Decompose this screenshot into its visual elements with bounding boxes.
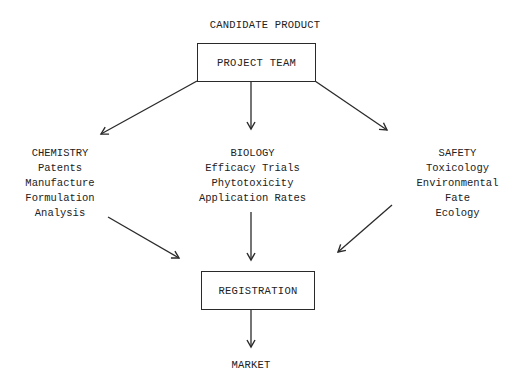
biology-title: BIOLOGY bbox=[180, 146, 325, 161]
arrow-team-to-chemistry bbox=[101, 81, 197, 134]
safety-item: Ecology bbox=[400, 206, 515, 221]
safety-item: Toxicology bbox=[400, 161, 515, 176]
biology-group: BIOLOGY Efficacy Trials Phytotoxicity Ap… bbox=[180, 146, 325, 206]
arrow-chemistry-to-registration bbox=[108, 217, 179, 258]
arrow-team-to-safety bbox=[315, 81, 387, 130]
safety-item: Fate bbox=[400, 191, 515, 206]
chemistry-item: Analysis bbox=[0, 206, 120, 221]
biology-item: Phytotoxicity bbox=[180, 176, 325, 191]
safety-group: SAFETY Toxicology Environmental Fate Eco… bbox=[400, 146, 515, 221]
chemistry-item: Formulation bbox=[0, 191, 120, 206]
project-team-label: PROJECT TEAM bbox=[217, 57, 296, 69]
chemistry-group: CHEMISTRY Patents Manufacture Formulatio… bbox=[0, 146, 120, 221]
safety-item: Environmental bbox=[400, 176, 515, 191]
chemistry-title: CHEMISTRY bbox=[0, 146, 120, 161]
registration-box: REGISTRATION bbox=[201, 271, 315, 310]
registration-label: REGISTRATION bbox=[218, 285, 297, 297]
market-label: MARKET bbox=[201, 359, 301, 371]
candidate-product-label: CANDIDATE PRODUCT bbox=[190, 19, 340, 31]
project-team-box: PROJECT TEAM bbox=[197, 43, 316, 82]
safety-title: SAFETY bbox=[400, 146, 515, 161]
arrow-safety-to-registration bbox=[338, 205, 392, 252]
biology-item: Application Rates bbox=[180, 191, 325, 206]
chemistry-item: Patents bbox=[0, 161, 120, 176]
biology-item: Efficacy Trials bbox=[180, 161, 325, 176]
chemistry-item: Manufacture bbox=[0, 176, 120, 191]
